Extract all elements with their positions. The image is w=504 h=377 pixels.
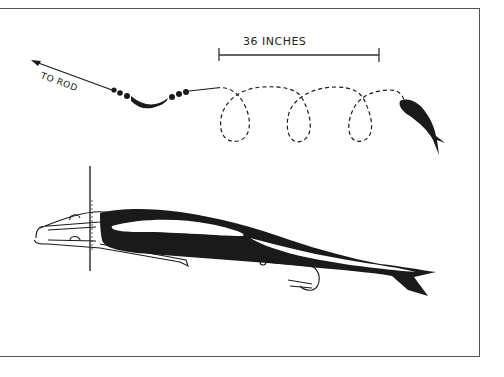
bait-fish bbox=[400, 100, 445, 155]
arrowhead-icon bbox=[31, 60, 41, 66]
to-rod-label: TO ROD bbox=[38, 70, 79, 93]
pin bbox=[90, 166, 92, 271]
keel-sinker bbox=[131, 96, 168, 108]
bead-chain bbox=[111, 87, 189, 100]
measurement-bar bbox=[219, 48, 379, 62]
leader-loops bbox=[216, 87, 404, 142]
measurement-label: 36 INCHES bbox=[243, 35, 306, 48]
fishing-rig-diagram: TO ROD 36 INCHES bbox=[0, 0, 504, 377]
